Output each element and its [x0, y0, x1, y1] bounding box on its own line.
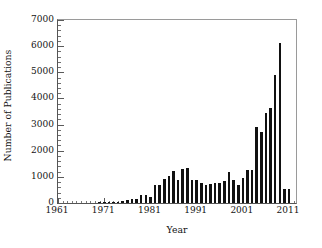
x-axis-tick-label: 1981: [129, 205, 169, 216]
bar: [260, 132, 263, 203]
bar: [255, 127, 258, 203]
bar: [251, 170, 254, 203]
bar: [214, 183, 217, 203]
bar: [131, 199, 134, 203]
bar: [205, 185, 208, 203]
y-axis-tick-label: 3000: [14, 119, 54, 128]
bar: [145, 195, 148, 203]
x-axis-tick-label: 1961: [37, 205, 77, 216]
publications-per-year-bar-chart: Number of Publications 01000200030004000…: [0, 0, 322, 248]
bar-series: [58, 20, 296, 203]
bar: [191, 180, 194, 203]
x-axis-title: Year: [57, 224, 297, 235]
bar: [98, 202, 101, 203]
bar: [108, 202, 111, 203]
bar: [149, 197, 152, 203]
bar: [195, 180, 198, 203]
bar: [265, 113, 268, 203]
x-axis-tick-label: 2001: [222, 205, 262, 216]
bar: [209, 184, 212, 203]
bar: [158, 185, 161, 203]
y-axis-tick-label: 4000: [14, 93, 54, 102]
bar: [279, 43, 282, 203]
x-axis-title-text: Year: [167, 224, 188, 235]
bar: [288, 189, 291, 203]
bar: [228, 172, 231, 203]
bar: [200, 183, 203, 203]
bar: [181, 169, 184, 204]
x-axis-tick-label: 1991: [176, 205, 216, 216]
x-axis-tick-label: 2011: [268, 205, 308, 216]
y-axis-title-text: Number of Publications: [3, 49, 14, 161]
bar: [163, 179, 166, 203]
bar: [269, 108, 272, 203]
y-axis-major-tick: [58, 203, 64, 204]
bar: [246, 170, 249, 203]
y-axis-tick-label: 2000: [14, 145, 54, 154]
bar: [172, 171, 175, 203]
bar: [140, 195, 143, 203]
bar: [121, 201, 124, 203]
plot-area: [57, 19, 297, 204]
bar: [186, 168, 189, 203]
y-axis-tick-label: 6000: [14, 41, 54, 50]
bar: [112, 202, 115, 203]
y-axis-tick-label: 7000: [14, 15, 54, 24]
y-axis-tick-label: 1000: [14, 171, 54, 180]
bar: [126, 200, 129, 203]
bar: [154, 185, 157, 203]
bar: [103, 202, 106, 203]
bar: [117, 202, 120, 203]
bar: [168, 176, 171, 203]
bar: [232, 180, 235, 203]
x-axis-tick-labels: 196119711981199120012011: [0, 205, 322, 221]
bar: [283, 189, 286, 203]
bar: [274, 75, 277, 203]
bar: [223, 181, 226, 203]
bar: [177, 180, 180, 203]
bar: [135, 199, 138, 203]
bar: [237, 185, 240, 203]
bar: [242, 178, 245, 203]
y-axis-tick-label: 5000: [14, 67, 54, 76]
bar: [218, 183, 221, 203]
x-axis-tick-label: 1971: [83, 205, 123, 216]
